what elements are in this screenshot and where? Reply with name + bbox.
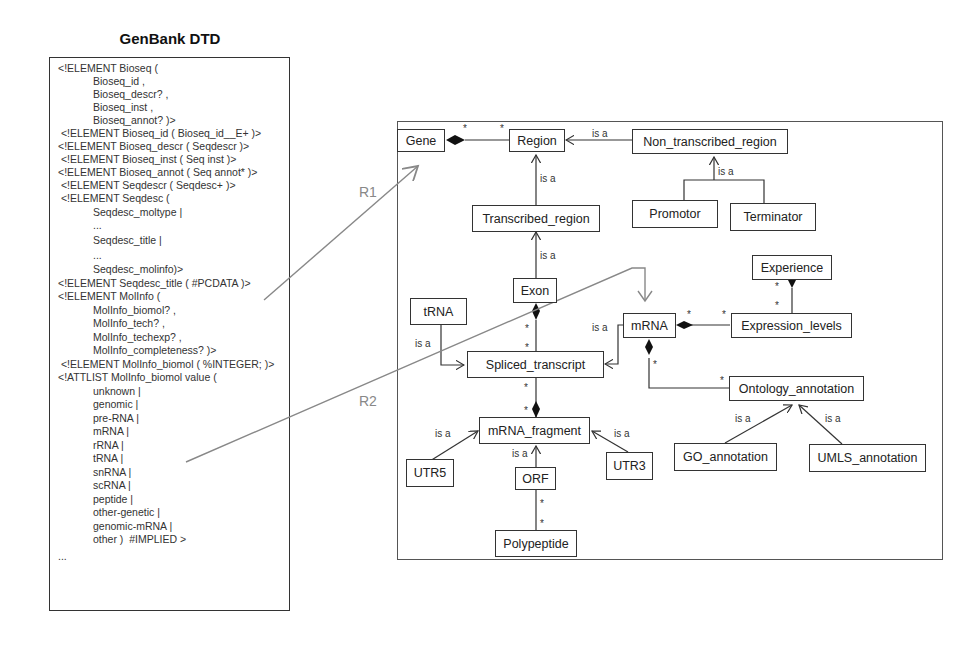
dtd-line: pre-RNA | bbox=[58, 412, 139, 425]
dtd-line: tRNA | bbox=[58, 452, 123, 465]
dtd-line: MolInfo_techexp? , bbox=[58, 331, 182, 344]
is-a-label: is a bbox=[825, 413, 841, 424]
class-polypeptide: Polypeptide bbox=[495, 530, 577, 557]
class-experience: Experience bbox=[752, 255, 832, 280]
class-orf: ORF bbox=[515, 467, 556, 490]
dtd-line: Bioseq_descr? , bbox=[58, 88, 168, 101]
dtd-line: scRNA | bbox=[58, 479, 131, 492]
class-umls-annotation: UMLS_annotation bbox=[809, 444, 926, 472]
is-a-label: is a bbox=[540, 173, 556, 184]
dtd-line: <!ATTLIST MolInfo_biomol value ( bbox=[58, 371, 217, 384]
class-mrna: mRNA bbox=[623, 313, 676, 338]
dtd-line: <!ELEMENT Bioseq_annot ( Seq annot* )> bbox=[58, 166, 257, 179]
uml-diagram-frame bbox=[397, 121, 943, 560]
class-transcribed-region: Transcribed_region bbox=[472, 205, 600, 232]
dtd-line: rRNA | bbox=[58, 439, 124, 452]
dtd-line: <!ELEMENT Bioseq_descr ( Seqdescr )> bbox=[58, 140, 249, 153]
dtd-line: <!ELEMENT Seqdescr ( Seqdesc+ )> bbox=[58, 179, 236, 192]
dtd-line: <!ELEMENT MolInfo_biomol ( %INTEGER; )> bbox=[58, 358, 274, 371]
class-promotor: Promotor bbox=[632, 200, 718, 228]
dtd-line: <!ELEMENT Bioseq_inst ( Seq inst )> bbox=[58, 153, 236, 166]
class-utr5: UTR5 bbox=[406, 459, 454, 487]
dtd-line: other ) #IMPLIED > bbox=[58, 533, 186, 546]
dtd-panel: <!ELEMENT Bioseq ( Bioseq_id , Bioseq_de… bbox=[49, 57, 290, 611]
dtd-line: Bioseq_annot? )> bbox=[58, 114, 176, 127]
class-expression-levels: Expression_levels bbox=[731, 313, 852, 338]
dtd-title: GenBank DTD bbox=[46, 30, 294, 47]
dtd-line: Seqdesc_moltype | bbox=[58, 206, 182, 219]
dtd-line: peptide | bbox=[58, 493, 133, 506]
dtd-line: ... bbox=[58, 249, 102, 262]
is-a-label: is a bbox=[540, 250, 556, 261]
dtd-line: Bioseq_inst , bbox=[58, 101, 153, 114]
relation-r2-label: R2 bbox=[359, 393, 377, 409]
class-gene: Gene bbox=[397, 129, 445, 152]
dtd-line: MolInfo_tech? , bbox=[58, 317, 165, 330]
dtd-line: unknown | bbox=[58, 385, 141, 398]
dtd-line: MolInfo_biomol? , bbox=[58, 304, 176, 317]
dtd-line: Seqdesc_molinfo)> bbox=[58, 263, 183, 276]
dtd-line: genomic | bbox=[58, 398, 138, 411]
class-ontology-annotation: Ontology_annotation bbox=[729, 376, 864, 401]
class-go-annotation: GO_annotation bbox=[674, 443, 777, 471]
is-a-label: is a bbox=[592, 128, 608, 139]
is-a-label: is a bbox=[435, 428, 451, 439]
is-a-label: is a bbox=[512, 448, 528, 459]
dtd-line: <!ELEMENT Bioseq_id ( Bioseq_id__E+ )> bbox=[58, 127, 261, 140]
class-non-transcribed-region: Non_transcribed_region bbox=[632, 129, 788, 154]
dtd-line: ... bbox=[58, 219, 102, 232]
dtd-line: Bioseq_id , bbox=[58, 75, 145, 88]
dtd-line: <!ELEMENT Seqdesc_title ( #PCDATA )> bbox=[58, 277, 251, 290]
is-a-label: is a bbox=[735, 413, 751, 424]
is-a-label: is a bbox=[614, 428, 630, 439]
dtd-line: <!ELEMENT MolInfo ( bbox=[58, 290, 160, 303]
class-spliced-transcript: Spliced_transcript bbox=[467, 351, 604, 378]
dtd-line: mRNA | bbox=[58, 425, 129, 438]
dtd-line: <!ELEMENT Bioseq ( bbox=[58, 62, 158, 75]
dtd-line: genomic-mRNA | bbox=[58, 520, 172, 533]
dtd-line: Seqdesc_title | bbox=[58, 234, 162, 247]
class-trna: tRNA bbox=[410, 298, 467, 325]
relation-r1-label: R1 bbox=[359, 184, 377, 200]
is-a-label: is a bbox=[592, 322, 608, 333]
is-a-label: is a bbox=[718, 166, 734, 177]
class-exon: Exon bbox=[513, 278, 557, 303]
is-a-label: is a bbox=[415, 338, 431, 349]
dtd-line: <!ELEMENT Seqdesc ( bbox=[58, 192, 170, 205]
dtd-line: ... bbox=[58, 550, 67, 563]
class-terminator: Terminator bbox=[730, 203, 816, 231]
class-mrna-fragment: mRNA_fragment bbox=[479, 417, 590, 444]
dtd-line: snRNA | bbox=[58, 466, 131, 479]
class-region: Region bbox=[509, 129, 565, 152]
dtd-line: MolInfo_completeness? )> bbox=[58, 344, 216, 357]
dtd-line: other-genetic | bbox=[58, 506, 160, 519]
class-utr3: UTR3 bbox=[606, 452, 653, 480]
